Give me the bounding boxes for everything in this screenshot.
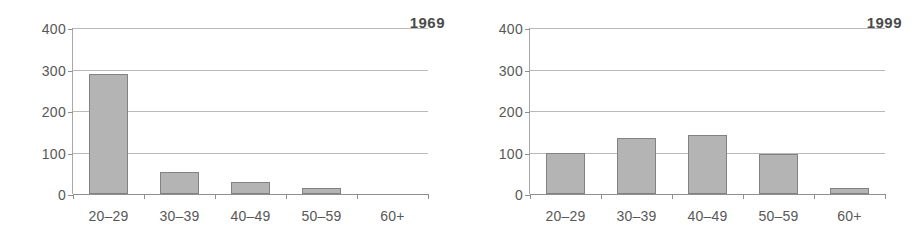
xtick-3 — [743, 194, 744, 199]
chart-panel-1999: 1999 400 300 200 100 0 — [457, 0, 912, 246]
ytick-label-300: 300 — [42, 63, 66, 79]
xtick-1 — [144, 194, 145, 199]
xlabel-30-39: 30–39 — [144, 208, 215, 224]
bar-slot-40-49 — [672, 28, 743, 194]
ytick-label-300: 300 — [499, 63, 523, 79]
xtick-2 — [672, 194, 673, 199]
ytick-label-400: 400 — [499, 21, 523, 37]
xlabel-50-59: 50–59 — [743, 208, 814, 224]
ytick-label-200: 200 — [499, 104, 523, 120]
xtick-0 — [530, 194, 531, 199]
xlabel-40-49: 40–49 — [672, 208, 743, 224]
chart-panel-1969: 1969 400 300 200 100 0 — [0, 0, 455, 246]
ytick-label-400: 400 — [42, 21, 66, 37]
xlabel-50-59: 50–59 — [286, 208, 357, 224]
xlabel-60-plus: 60+ — [814, 208, 885, 224]
xtick-0 — [73, 194, 74, 199]
bar-series-1969 — [73, 28, 428, 194]
bar-40-49[interactable] — [688, 135, 728, 194]
ytick-label-100: 100 — [499, 146, 523, 162]
ytick-label-100: 100 — [42, 146, 66, 162]
bar-slot-60-plus — [357, 28, 428, 194]
bar-series-1999 — [530, 28, 885, 194]
bar-slot-20-29 — [530, 28, 601, 194]
bar-slot-40-49 — [215, 28, 286, 194]
bar-slot-60-plus — [814, 28, 885, 194]
xtick-4 — [357, 194, 358, 199]
xtick-1 — [601, 194, 602, 199]
bar-slot-50-59 — [743, 28, 814, 194]
xlabel-20-29: 20–29 — [530, 208, 601, 224]
x-axis-labels-1999: 20–29 30–39 40–49 50–59 60+ — [530, 208, 885, 224]
bar-slot-20-29 — [73, 28, 144, 194]
bar-slot-30-39 — [144, 28, 215, 194]
x-axis-1999 — [530, 194, 885, 200]
x-axis-labels-1969: 20–29 30–39 40–49 50–59 60+ — [73, 208, 428, 224]
xlabel-60-plus: 60+ — [357, 208, 428, 224]
xtick-2 — [215, 194, 216, 199]
bar-20-29[interactable] — [89, 74, 129, 194]
xlabel-30-39: 30–39 — [601, 208, 672, 224]
x-axis-1969 — [73, 194, 428, 200]
bar-slot-30-39 — [601, 28, 672, 194]
bar-30-39[interactable] — [617, 138, 657, 194]
chart-page: 1969 400 300 200 100 0 — [0, 0, 915, 246]
bar-40-49[interactable] — [231, 182, 271, 194]
ytick-label-200: 200 — [42, 104, 66, 120]
xtick-5 — [428, 194, 429, 199]
xtick-3 — [286, 194, 287, 199]
bar-slot-50-59 — [286, 28, 357, 194]
xtick-5 — [885, 194, 886, 199]
plot-area-1999: 400 300 200 100 0 — [529, 28, 885, 194]
bar-20-29[interactable] — [546, 153, 586, 195]
xlabel-20-29: 20–29 — [73, 208, 144, 224]
plot-area-1969: 400 300 200 100 0 — [72, 28, 428, 194]
ytick-label-0: 0 — [515, 187, 523, 203]
bar-50-59[interactable] — [759, 154, 799, 194]
bar-30-39[interactable] — [160, 172, 200, 194]
xlabel-40-49: 40–49 — [215, 208, 286, 224]
ytick-label-0: 0 — [58, 187, 66, 203]
xtick-4 — [814, 194, 815, 199]
